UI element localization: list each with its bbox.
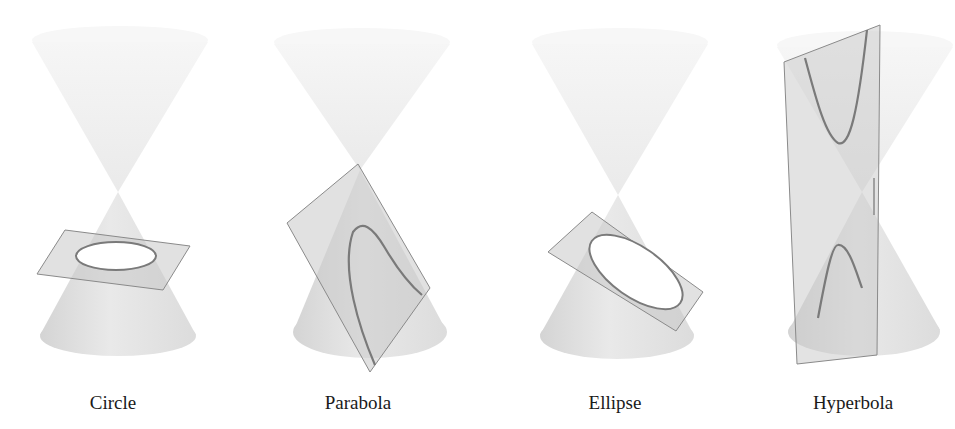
double-cone <box>32 26 208 356</box>
parabola-panel <box>274 28 450 372</box>
label-hyperbola: Hyperbola <box>813 392 893 414</box>
cutting-plane-vertical <box>784 25 880 364</box>
label-circle: Circle <box>90 392 136 414</box>
circle-panel <box>32 26 208 356</box>
ellipse-panel <box>532 28 708 359</box>
circle-curve <box>76 242 156 270</box>
upper-nappe <box>274 44 450 170</box>
cone-base <box>40 316 196 356</box>
upper-nappe <box>32 42 208 192</box>
upper-nappe <box>532 44 708 195</box>
label-parabola: Parabola <box>325 392 391 414</box>
label-ellipse: Ellipse <box>589 392 642 414</box>
hyperbola-panel <box>777 25 953 364</box>
conic-sections-figure <box>0 0 955 429</box>
